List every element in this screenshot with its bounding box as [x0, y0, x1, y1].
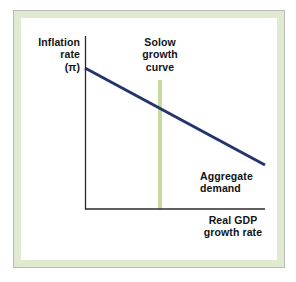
- aggregate-demand-label: Aggregate demand: [200, 170, 278, 195]
- x-axis-label: Real GDP growth rate: [190, 214, 276, 239]
- solow-growth-curve-label: Solow growth curve: [123, 36, 197, 73]
- figure-root: Inflation rate (π) Solow growth curve Ag…: [0, 0, 296, 282]
- aggregate-demand-line: [85, 68, 265, 165]
- y-axis-label: Inflation rate (π): [18, 36, 80, 73]
